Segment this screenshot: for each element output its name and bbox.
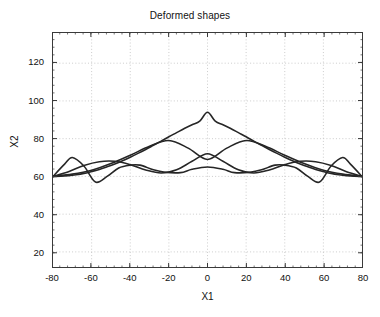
y-tick-label: 100 [0,95,44,106]
x-tick-label: -60 [71,272,111,283]
y-tick-label: 40 [0,209,44,220]
x-axis-label: X1 [52,291,363,302]
x-tick-label: -20 [149,272,189,283]
curve-mode-2 [53,141,362,177]
x-tick-label: 20 [226,272,266,283]
y-tick-label: 20 [0,247,44,258]
y-tick-label: 80 [0,133,44,144]
y-tick-label: 60 [0,171,44,182]
x-tick-label: -40 [110,272,150,283]
chart-figure: Deformed shapes 20406080100120 -80-60-40… [0,0,380,317]
chart-title: Deformed shapes [0,10,380,21]
y-axis-label: X2 [9,112,20,172]
plot-area [52,32,363,268]
curve-mode-3 [53,154,362,177]
x-tick-label: 0 [188,272,228,283]
x-tick-label: -80 [32,272,72,283]
x-tick-label: 80 [343,272,380,283]
x-tick-label: 60 [304,272,344,283]
curve-series-group [53,33,362,267]
x-tick-label: 40 [265,272,305,283]
y-tick-label: 120 [0,56,44,67]
